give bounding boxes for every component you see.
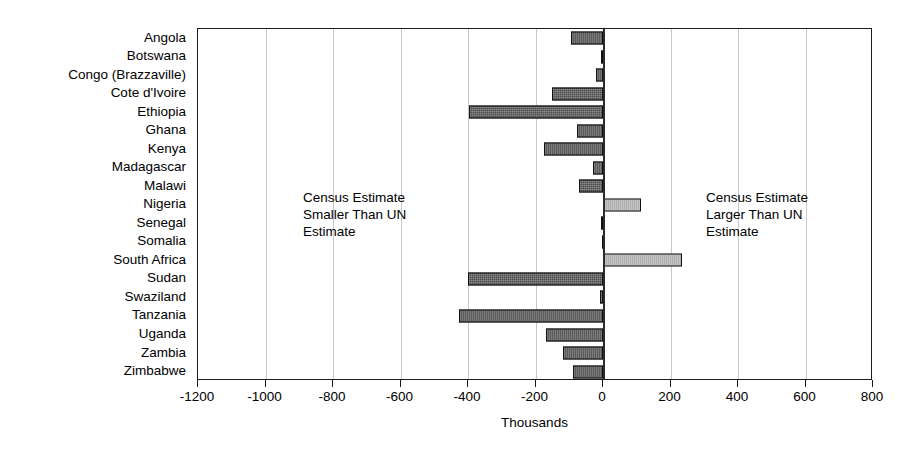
bar-row: [198, 29, 871, 48]
bar-row: [198, 140, 871, 159]
category-label: Nigeria: [0, 195, 192, 214]
x-tick-label: 0: [598, 389, 606, 404]
bar-row: [198, 85, 871, 104]
x-tick-label: 800: [861, 389, 884, 404]
bar: [459, 309, 603, 322]
bar-row: [198, 48, 871, 67]
category-label: Tanzania: [0, 306, 192, 325]
bar-row: [198, 325, 871, 344]
category-label: Senegal: [0, 213, 192, 232]
x-tick: [332, 380, 333, 387]
bar: [603, 198, 641, 211]
category-label: Somalia: [0, 232, 192, 251]
category-label: Kenya: [0, 139, 192, 158]
x-tick: [602, 380, 603, 387]
x-axis-title: Thousands: [197, 415, 872, 430]
bar: [468, 272, 603, 285]
category-label: Swaziland: [0, 287, 192, 306]
bar: [577, 124, 603, 137]
bar-row: [198, 159, 871, 178]
category-label: Ghana: [0, 121, 192, 140]
category-label: Malawi: [0, 176, 192, 195]
category-label: Zimbabwe: [0, 362, 192, 381]
category-axis-labels: AngolaBotswanaCongo (Brazzaville)Cote d'…: [0, 28, 192, 380]
category-label: Uganda: [0, 325, 192, 344]
plot-area: Census Estimate Smaller Than UN Estimate…: [197, 28, 872, 380]
bar: [469, 106, 603, 119]
x-tick-label: 400: [726, 389, 749, 404]
x-tick: [197, 380, 198, 387]
x-axis-tick-labels: -1200-1000-800-600-400-2000200400600800: [197, 389, 872, 409]
category-label: Zambia: [0, 343, 192, 362]
left-annotation: Census Estimate Smaller Than UN Estimate: [303, 189, 406, 240]
bar: [552, 87, 603, 100]
x-tick: [872, 380, 873, 387]
bar-row: [198, 270, 871, 289]
category-label: Botswana: [0, 47, 192, 66]
x-tick-label: -1200: [180, 389, 215, 404]
x-tick-label: 200: [658, 389, 681, 404]
x-tick-label: -800: [318, 389, 345, 404]
bar-row: [198, 122, 871, 141]
bar-row: [198, 251, 871, 270]
x-tick: [535, 380, 536, 387]
x-tick: [670, 380, 671, 387]
category-label: Ethiopia: [0, 102, 192, 121]
x-tick: [737, 380, 738, 387]
bar-chart: AngolaBotswanaCongo (Brazzaville)Cote d'…: [0, 0, 914, 466]
category-label: Madagascar: [0, 158, 192, 177]
x-tick: [805, 380, 806, 387]
bar: [593, 161, 603, 174]
right-annotation: Census Estimate Larger Than UN Estimate: [706, 189, 808, 240]
category-label: Sudan: [0, 269, 192, 288]
zero-axis-line: [603, 29, 605, 379]
bar-row: [198, 288, 871, 307]
category-label: South Africa: [0, 250, 192, 269]
category-label: Angola: [0, 28, 192, 47]
bar-row: [198, 103, 871, 122]
bar: [596, 69, 603, 82]
bar: [563, 347, 604, 360]
category-label: Cote d'Ivoire: [0, 84, 192, 103]
category-label: Congo (Brazzaville): [0, 65, 192, 84]
x-tick: [265, 380, 266, 387]
bar-row: [198, 344, 871, 363]
bar: [603, 254, 682, 267]
x-tick: [467, 380, 468, 387]
x-tick-label: 600: [793, 389, 816, 404]
bar-row: [198, 362, 871, 380]
x-tick-label: -200: [521, 389, 548, 404]
bar: [573, 365, 603, 378]
bar: [571, 32, 603, 45]
bar: [544, 143, 603, 156]
x-tick: [400, 380, 401, 387]
bar: [546, 328, 603, 341]
bar-row: [198, 307, 871, 326]
bar-row: [198, 66, 871, 85]
x-tick-label: -1000: [247, 389, 282, 404]
x-tick-label: -400: [453, 389, 480, 404]
bar: [579, 180, 603, 193]
x-tick-label: -600: [386, 389, 413, 404]
